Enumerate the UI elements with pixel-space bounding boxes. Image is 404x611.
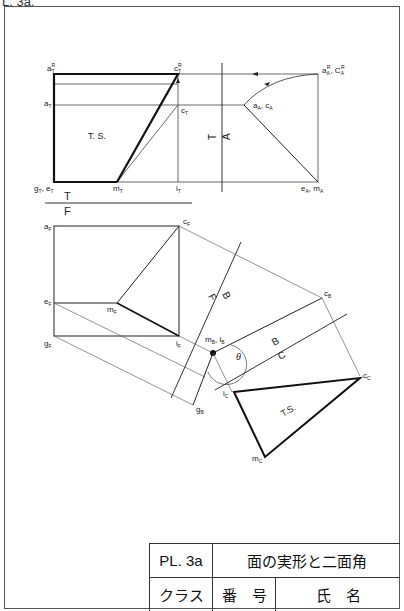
front-view [54, 226, 322, 405]
label-cb: cB [324, 289, 332, 299]
label-af: aF [44, 222, 52, 232]
label-true-shape-top: T. S. [88, 131, 106, 141]
label-mb-ib: mB, iB [205, 335, 225, 345]
label-ct: cT [181, 106, 188, 116]
label-mf: mF [107, 305, 117, 315]
fold-tf-bottom: F [64, 205, 71, 217]
title-block-row-2: クラス 番 号 氏 名 [149, 577, 400, 611]
label-theta: θ [236, 352, 241, 362]
title-block-row-1: PL. 3a 面の実形と二面角 [149, 543, 400, 577]
descriptive-geometry-drawing: aTR cTR aT cT T. S. gT, eT mT iT aAR, CA… [0, 0, 404, 611]
class-field-label: クラス [149, 578, 212, 611]
fold-label-t-a: T [207, 134, 218, 140]
plate-title: 面の実形と二面角 [212, 544, 400, 577]
label-gf: gF [44, 339, 52, 349]
label-if: iF [176, 339, 181, 349]
label-mt: mT [113, 184, 123, 194]
label-gt-et: gT, eT [34, 184, 53, 194]
fold-line-fb [171, 242, 241, 398]
fold-bc-top: B [270, 335, 281, 348]
name-field-label: 氏 名 [275, 578, 400, 611]
label-cf: cF [183, 217, 190, 227]
fold-label-a: A [221, 133, 232, 140]
title-block: PL. 3a 面の実形と二面角 クラス 番 号 氏 名 [149, 543, 400, 609]
fold-fb-bottom: B [220, 290, 233, 301]
label-mc: mC [252, 454, 263, 464]
label-gb: gB [196, 405, 204, 415]
label-cc: cC [363, 371, 371, 381]
fold-bc-bottom: C [276, 349, 288, 362]
aux-view-c-true-shape [234, 378, 360, 457]
label-true-shape-c: T.S. [279, 402, 297, 418]
label-ic: iC [223, 389, 229, 399]
number-field-label: 番 号 [212, 578, 275, 611]
label-at-r: aTR [47, 62, 56, 74]
label-ef: eF [44, 297, 52, 307]
top-view [54, 74, 318, 182]
fold-tf-top: T [64, 190, 71, 202]
aux-view-a [244, 72, 318, 182]
label-ea-ma: eA, mA [301, 184, 324, 194]
label-ct-r: cTR [174, 62, 182, 74]
label-aa-r-ca-r: aAR, CAR [322, 64, 345, 76]
label-at: aT [44, 99, 52, 109]
fold-fb-top: F [206, 292, 219, 302]
label-it: iT [176, 184, 181, 194]
label-aa-ca: aA, cA [253, 101, 273, 111]
plate-number: PL. 3a [149, 544, 212, 577]
